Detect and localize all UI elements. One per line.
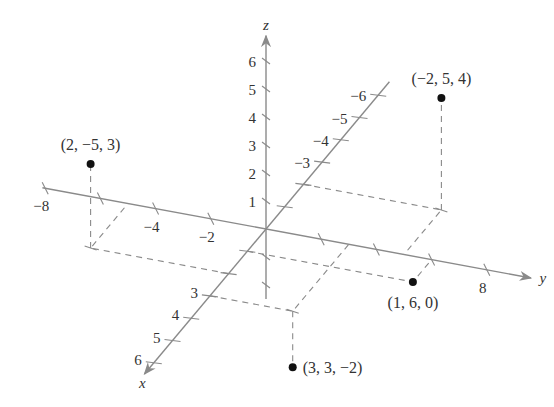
z-tick-label: 6 — [249, 54, 257, 70]
x-tick-label: 6 — [134, 352, 142, 368]
z-tick-label: 1 — [249, 194, 257, 210]
y-axis — [42, 188, 531, 278]
z-tick-label: 5 — [249, 82, 257, 98]
3d-coordinate-plot: x3456−3−4−5−6y−8−4−28z123456 (−2, 5, 4)(… — [0, 0, 554, 407]
x-tick-label: 5 — [153, 330, 161, 346]
x-axis — [144, 82, 389, 374]
y-tick-label: −2 — [199, 229, 215, 245]
x-axis-label: x — [138, 375, 146, 391]
z-axis-label: z — [262, 17, 269, 33]
xy-plane-guide — [210, 244, 349, 311]
y-tick-label: −8 — [33, 198, 49, 214]
z-tick-label: 2 — [249, 166, 257, 182]
x-tick-label: −3 — [294, 155, 310, 171]
x-tick-label: 3 — [190, 285, 198, 301]
y-tick-label: 8 — [479, 280, 487, 296]
data-point — [289, 363, 297, 371]
data-point — [409, 278, 417, 286]
x-tick-label: −5 — [332, 111, 348, 127]
x-tick-label: −6 — [350, 88, 366, 104]
y-axis-label: y — [538, 270, 547, 286]
point-label: (3, 3, −2) — [303, 359, 363, 377]
data-point — [437, 94, 445, 102]
data-point — [87, 160, 95, 168]
point-label: (1, 6, 0) — [388, 294, 439, 312]
y-tick-label: −4 — [144, 219, 160, 235]
x-tick-label: 4 — [172, 307, 180, 323]
point-label: (−2, 5, 4) — [412, 70, 472, 88]
point-label: (2, −5, 3) — [61, 136, 121, 154]
z-tick-label: 3 — [249, 138, 257, 154]
z-tick-label: 4 — [249, 110, 257, 126]
x-tick-label: −4 — [313, 133, 329, 149]
